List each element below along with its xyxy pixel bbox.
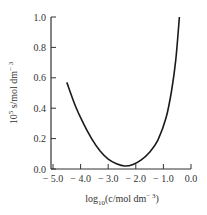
- x-tick-label: − 2.0: [125, 173, 146, 184]
- x-tick-label: 0.0: [185, 173, 198, 184]
- x-axis-label: log10(c/mol dm− 3): [85, 192, 159, 207]
- solubility-chart: 0.00.20.40.60.81.0− 5.0− 4.0− 3.0− 2.0− …: [0, 0, 207, 215]
- solubility-curve: [67, 17, 180, 166]
- y-tick-label: 0.8: [34, 42, 47, 53]
- y-tick-label: 1.0: [34, 12, 47, 23]
- axes: [51, 17, 191, 169]
- y-tick-label: 0.2: [34, 133, 47, 144]
- y-tick-label: 0.4: [34, 103, 47, 114]
- ticks: 0.00.20.40.60.81.0− 5.0− 4.0− 3.0− 2.0− …: [34, 12, 198, 185]
- x-tick-label: − 3.0: [98, 173, 119, 184]
- x-tick-label: − 4.0: [70, 173, 91, 184]
- x-tick-label: − 5.0: [43, 173, 64, 184]
- y-axis-label: 105 s/mol dm− 3: [7, 61, 19, 124]
- x-tick-label: − 1.0: [153, 173, 174, 184]
- data-series: [67, 17, 180, 166]
- y-tick-label: 0.6: [34, 72, 47, 83]
